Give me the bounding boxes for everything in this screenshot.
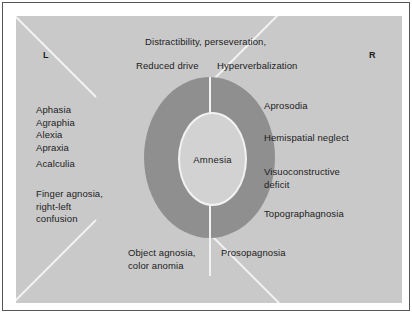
diagram-panel: Amnesia L R Distractibility, perseverati… bbox=[16, 16, 402, 303]
top-right-hyperverbalization: Hyperverbalization bbox=[217, 60, 297, 73]
top-left-reduced-drive: Reduced drive bbox=[136, 60, 199, 73]
divider-line-upper-left bbox=[16, 16, 97, 98]
left-hemisphere-label: L bbox=[43, 50, 49, 60]
right-hemispatial-neglect: Hemispatial neglect bbox=[264, 132, 349, 145]
figure-outer-border: Amnesia L R Distractibility, perseverati… bbox=[2, 2, 410, 311]
right-visuoconstructive-deficit: Visuoconstructive deficit bbox=[264, 166, 340, 191]
divider-line-vertical-top bbox=[209, 77, 211, 114]
left-language-group: Aphasia Agraphia Alexia Apraxia bbox=[36, 104, 75, 154]
divider-line-lower-left bbox=[16, 219, 97, 303]
right-topographagnosia: Topographagnosia bbox=[264, 208, 344, 221]
figure-root: Amnesia L R Distractibility, perseverati… bbox=[0, 0, 412, 313]
divider-line-vertical-bottom bbox=[209, 201, 211, 276]
right-aprosodia: Aprosodia bbox=[264, 100, 308, 113]
bottom-left-object-agnosia: Object agnosia, color anomia bbox=[128, 247, 196, 272]
amnesia-label: Amnesia bbox=[193, 154, 231, 165]
left-acalculia: Acalculia bbox=[36, 158, 75, 171]
limbic-core-ellipse: Amnesia bbox=[178, 112, 247, 206]
top-frontal-line: Distractibility, perseveration, bbox=[145, 36, 266, 49]
left-gerstmann-group: Finger agnosia, right-left confusion bbox=[36, 188, 103, 226]
bottom-right-prosopagnosia: Prosopagnosia bbox=[221, 247, 286, 260]
right-hemisphere-label: R bbox=[369, 50, 376, 60]
